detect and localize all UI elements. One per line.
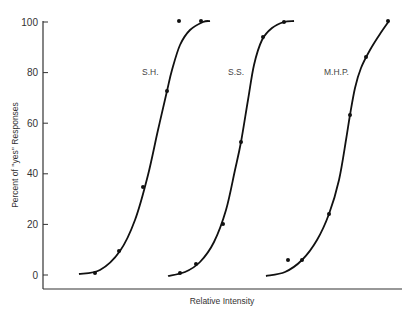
fitted-curve [266,21,389,276]
data-point [300,258,304,262]
y-tick-label: 80 [27,67,39,78]
data-point [117,249,121,253]
data-point [348,113,352,117]
psychometric-chart: 020406080100 S.H.S.S.M.H.P. Relative Int… [0,0,412,314]
series-group: S.H.S.S.M.H.P. [79,19,390,276]
data-point [364,55,368,59]
data-point [261,35,265,39]
data-point [177,19,181,23]
series-label: S.S. [228,67,244,77]
series-label: M.H.P. [324,67,349,77]
fitted-curve [168,21,294,276]
data-point [141,185,145,189]
data-point [386,19,390,23]
y-ticks: 020406080100 [21,17,48,281]
x-axis-title: Relative Intensity [190,296,255,306]
series-ss: S.S. [168,20,294,276]
y-tick-label: 0 [32,270,38,281]
series-mhp: M.H.P. [266,19,390,276]
y-tick-label: 40 [27,168,39,179]
data-point [178,271,182,275]
y-tick-label: 60 [27,118,39,129]
y-tick-label: 100 [21,17,38,28]
data-point [286,258,290,262]
series-sh: S.H. [79,19,210,275]
y-axis-title: Percent of ''yes'' Responses [10,102,20,208]
data-point [221,222,225,226]
data-point [165,89,169,93]
data-point [327,212,331,216]
data-point [199,19,203,23]
data-point [282,20,286,24]
data-point [93,271,97,275]
y-tick-label: 20 [27,219,39,230]
series-label: S.H. [142,67,159,77]
data-point [239,140,243,144]
fitted-curve [79,21,210,274]
data-point [194,262,198,266]
